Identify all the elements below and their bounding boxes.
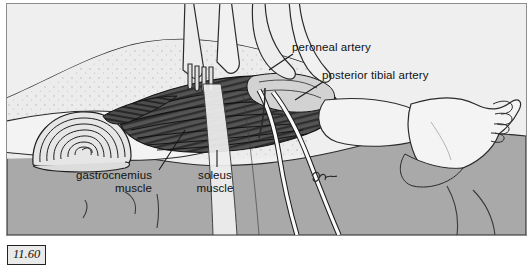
label-soleus-line1: soleus xyxy=(175,169,255,182)
anatomy-illustration-svg xyxy=(7,4,526,235)
label-gastrocnemius-muscle: gastrocnemius muscle xyxy=(7,169,152,194)
illustration-plate: peroneal artery posterior tibial artery … xyxy=(6,3,527,236)
label-gastrocnemius-line2: muscle xyxy=(7,182,152,195)
label-peroneal-artery: peroneal artery xyxy=(292,41,371,54)
figure-number-box: 11.60 xyxy=(7,245,46,265)
label-gastrocnemius-line1: gastrocnemius xyxy=(7,169,152,182)
figure-container: peroneal artery posterior tibial artery … xyxy=(0,0,532,273)
label-posterior-tibial-artery: posterior tibial artery xyxy=(322,69,428,82)
label-soleus-line2: muscle xyxy=(175,182,255,195)
label-soleus-muscle: soleus muscle xyxy=(175,169,255,194)
